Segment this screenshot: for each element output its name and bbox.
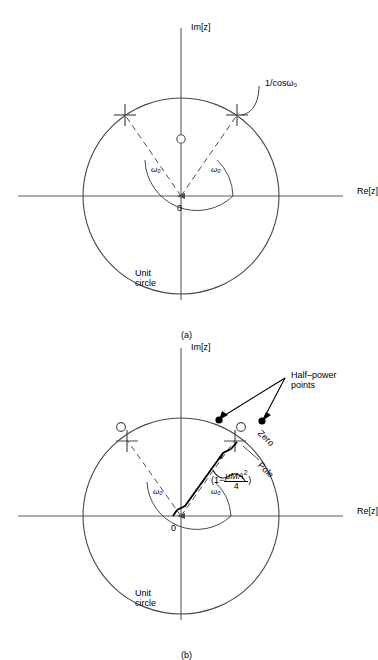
formula-lead: 1− bbox=[214, 475, 224, 485]
formula-fraction: μMA2 4 bbox=[224, 470, 248, 492]
panel-a: Re[z] Im[z] 0 ω₀ ω₀ 1/cosω₀ Unit circle … bbox=[0, 0, 363, 319]
omega-glyph: ω₀ bbox=[151, 165, 161, 174]
unit-circle-label-a: Unit circle bbox=[135, 268, 156, 288]
panel-b-plot bbox=[0, 320, 363, 639]
circle-word: circle bbox=[135, 278, 156, 288]
panel-caption-b: (b) bbox=[181, 650, 192, 660]
zero-marker-origin bbox=[177, 135, 185, 143]
panel-b: Re[z] Im[z] 0 ω₀ ω₀ Pole Zero Half–power… bbox=[0, 320, 363, 639]
omega-glyph: ω₀ bbox=[211, 165, 221, 174]
formula-paren-close: ) bbox=[248, 475, 251, 485]
omega0-label-b-lower: ω₀ bbox=[153, 488, 163, 497]
radial-line-upper bbox=[181, 115, 237, 196]
omega0-label-a-lower: ω₀ bbox=[151, 166, 161, 175]
half-power-line-2: points bbox=[291, 380, 337, 390]
half-power-leader-1-head bbox=[262, 412, 271, 421]
radius-brace-tick bbox=[231, 442, 237, 449]
formula-denominator: 4 bbox=[224, 482, 248, 491]
pole-marker-upper bbox=[226, 104, 248, 126]
re-axis-label-a: Re[z] bbox=[357, 186, 378, 196]
formula-num-exponent: 2 bbox=[244, 469, 248, 476]
unit-circle-label-b: Unit circle bbox=[135, 588, 156, 608]
unit-word: Unit bbox=[135, 268, 156, 278]
zero-marker-upper bbox=[237, 423, 246, 432]
pole-marker-lower bbox=[116, 430, 138, 452]
origin-label-a: 0 bbox=[177, 203, 182, 213]
omega0-label-a-upper: ω₀ bbox=[211, 166, 221, 175]
one-over-cos-label: 1/cosω₀ bbox=[265, 78, 297, 88]
zero-marker-lower bbox=[117, 423, 126, 432]
pole-marker-lower bbox=[114, 104, 136, 126]
im-axis-label-a: Im[z] bbox=[191, 22, 211, 32]
circle-word: circle bbox=[135, 598, 156, 608]
half-power-line-1: Half–power bbox=[291, 370, 337, 380]
half-power-label: Half–power points bbox=[291, 370, 337, 390]
im-axis-label-b: Im[z] bbox=[191, 342, 211, 352]
leader-one-over-cos bbox=[241, 86, 259, 115]
re-axis-label-b: Re[z] bbox=[357, 506, 378, 516]
half-power-leader-2 bbox=[222, 378, 285, 417]
origin-label-b: 0 bbox=[171, 523, 176, 533]
radius-brace-tail bbox=[173, 510, 177, 516]
panel-a-plot bbox=[0, 0, 363, 319]
formula-num-text: μMA bbox=[225, 471, 243, 481]
radial-line-lower bbox=[125, 115, 181, 196]
unit-word: Unit bbox=[135, 588, 156, 598]
radius-formula: (1− μMA2 4 ) bbox=[211, 470, 251, 492]
pole-marker-upper bbox=[224, 430, 246, 452]
omega-glyph: ω₀ bbox=[153, 487, 163, 496]
half-power-leader-2-head bbox=[219, 411, 228, 420]
